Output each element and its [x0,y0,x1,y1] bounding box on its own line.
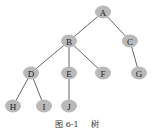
node-label: F [100,69,105,79]
node-a: A [95,6,111,19]
figure-caption: 图 6-1 树 [0,118,154,129]
node-label: B [66,37,72,47]
node-label: E [66,69,72,79]
tree-nodes: ABCDEFGHIJ [5,6,147,113]
node-h: H [5,100,21,113]
node-label: H [10,102,17,112]
node-b: B [61,35,77,48]
node-label: C [127,37,133,47]
node-label: G [136,69,143,79]
node-c: C [122,35,138,48]
tree-edges [13,12,139,106]
node-label: J [67,102,71,112]
node-label: I [43,102,46,112]
figure-title: 树 [91,120,99,129]
node-g: G [131,67,147,80]
edge-b-d [31,41,69,73]
node-f: F [95,67,111,80]
node-label: D [28,69,35,79]
tree-diagram: ABCDEFGHIJ [0,0,154,137]
node-j: J [61,100,77,113]
node-e: E [61,67,77,80]
node-label: A [100,8,107,18]
node-i: I [36,100,52,113]
node-d: D [23,67,39,80]
figure-number: 图 6-1 [55,120,78,129]
